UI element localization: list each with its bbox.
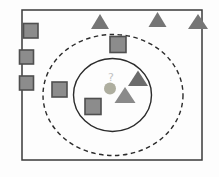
- class-b-square: [85, 99, 101, 115]
- class-b-square: [110, 37, 126, 53]
- diagram-canvas: ?: [0, 0, 219, 177]
- class-b-square: [24, 24, 39, 39]
- class-b-square: [52, 82, 67, 97]
- class-b-square: [20, 50, 34, 64]
- knn-diagram: ?: [0, 0, 219, 177]
- query-label: ?: [108, 71, 114, 84]
- class-b-square: [20, 76, 34, 90]
- query-point: [104, 83, 116, 95]
